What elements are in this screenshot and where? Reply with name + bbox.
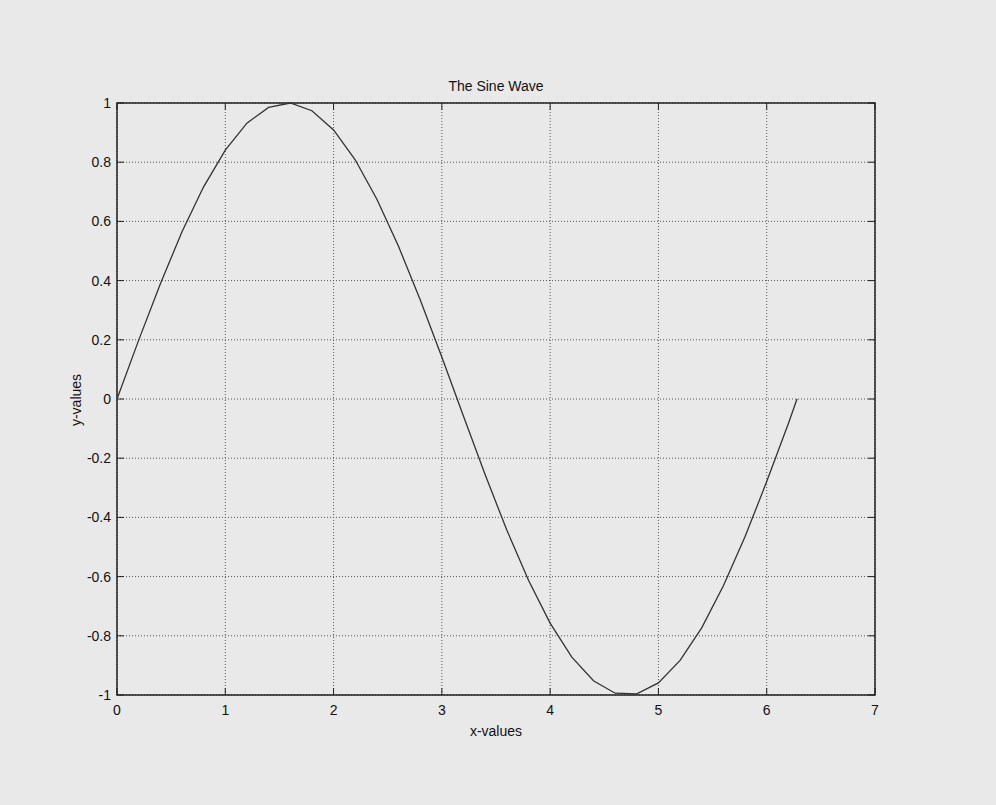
plot-area: 01234567-1-0.8-0.6-0.4-0.200.20.40.60.81 [0,0,996,805]
sine-chart: 01234567-1-0.8-0.6-0.4-0.200.20.40.60.81… [0,0,996,805]
y-tick-label: 0 [103,391,111,407]
x-tick-label: 6 [763,702,771,718]
y-axis-label: y-values [68,374,84,426]
x-tick-label: 7 [871,702,879,718]
y-tick-label: 0.8 [92,154,112,170]
y-tick-label: 0.4 [92,273,112,289]
chart-title: The Sine Wave [117,78,875,94]
x-tick-label: 2 [330,702,338,718]
y-tick-label: 1 [103,95,111,111]
x-axis-label: x-values [117,723,875,739]
y-tick-label: -1 [99,687,112,703]
sine-line [117,103,797,694]
y-tick-label: 0.6 [92,213,112,229]
x-tick-label: 1 [221,702,229,718]
y-tick-label: -0.2 [87,450,111,466]
x-tick-label: 5 [655,702,663,718]
y-tick-label: -0.6 [87,569,111,585]
y-tick-label: -0.4 [87,509,111,525]
x-tick-label: 3 [438,702,446,718]
y-tick-label: 0.2 [92,332,112,348]
y-tick-label: -0.8 [87,628,111,644]
x-tick-label: 4 [546,702,554,718]
x-tick-label: 0 [113,702,121,718]
